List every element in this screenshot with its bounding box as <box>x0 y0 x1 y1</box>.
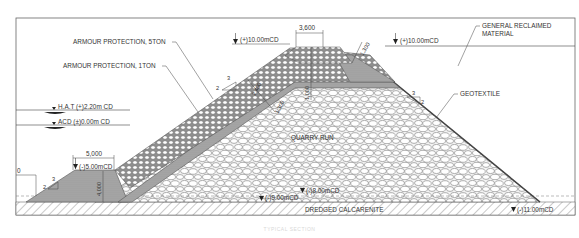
toe-berm <box>26 170 128 202</box>
crest-5ton-top <box>285 47 352 63</box>
level-seabed-8-text: (-)8.00mCD <box>306 187 340 195</box>
level-crest-right-text: (+)10.00mCD <box>400 37 439 45</box>
dredged-calcarenite-layer <box>16 202 575 215</box>
level-marker-toe-berm: (-)5.00mCD <box>73 158 113 171</box>
slope-toe-rise: 2 <box>43 184 46 190</box>
level-marker-crest-right: (+)10.00mCD <box>393 33 439 45</box>
crest-width-dim: 3,600 <box>299 24 315 31</box>
general-reclaimed-label-line1: GENERAL RECLAIMED <box>482 22 552 29</box>
armour-1ton-label: ARMOUR PROTECTION, 1TON <box>63 62 156 69</box>
slope-landward-rise: 2 <box>421 99 424 105</box>
berm-width-dim: 5,000 <box>86 150 102 157</box>
left-cut-dim: 0 <box>17 167 21 174</box>
cross-section-diagram: 3,600 (+)10.00mCD (+)10.00mCD 1,300 1,00… <box>0 0 579 238</box>
toe-height-dim: 4,000 <box>96 182 102 196</box>
level-seabed-9-text: (-)9.00mCD <box>265 194 299 202</box>
level-marker-hat: H.A.T (+)2.20m CD <box>16 103 130 114</box>
level-marker-seabed-9: (-)9.00mCD <box>259 194 299 202</box>
slope-landward-run: 3 <box>412 90 415 96</box>
level-acd-text: ACD (±)0.00m CD <box>58 118 110 126</box>
crest-height-dim: 1,000 <box>304 86 310 100</box>
slope-seaward-run: 3 <box>227 75 230 81</box>
level-marker-seabed-8: (-)8.00mCD <box>300 187 340 195</box>
drawing-caption: TYPICAL SECTION <box>0 226 579 232</box>
quarry-run-label: QUARRY RUN <box>291 134 334 142</box>
dredged-calcarenite-label: DREDGED CALCARENITE <box>305 206 383 213</box>
slope-toe-run: 3 <box>52 176 55 182</box>
slope-seaward-rise: 2 <box>216 85 219 91</box>
level-marker-acd: ACD (±)0.00m CD <box>16 118 130 129</box>
geotextile-label: GEOTEXTILE <box>460 90 500 97</box>
level-toe-berm-text: (-)5.00mCD <box>79 163 113 171</box>
level-dredge-11-text: (-)11.00mCD <box>517 206 554 214</box>
level-hat-text: H.A.T (+)2.20m CD <box>58 103 113 111</box>
level-crest-left-text: (+)10.00mCD <box>240 36 279 44</box>
level-marker-crest-left: (+)10.00mCD <box>232 33 290 44</box>
general-reclaimed-label-line2: MATERIAL <box>482 30 514 37</box>
level-marker-dredge-11: (-)11.00mCD <box>511 206 554 214</box>
armour-5ton-label: ARMOUR PROTECTION, 5TON <box>73 38 166 45</box>
armour-thickness-top-dim: 1,300 <box>359 41 371 56</box>
